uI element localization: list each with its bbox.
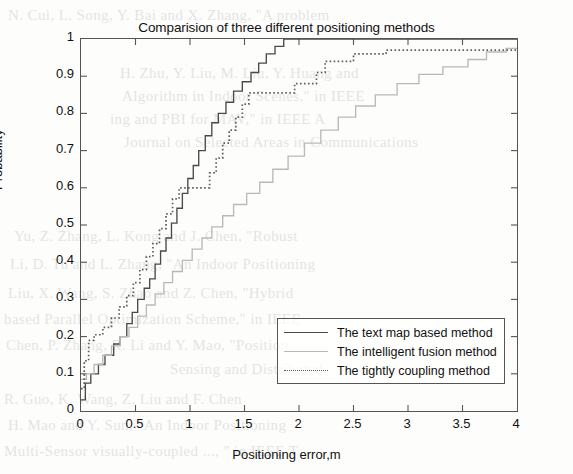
x-tick-label: 0.5 <box>115 416 155 431</box>
y-axis-label: Probability <box>0 129 5 190</box>
chart-title: Comparision of three different positioni… <box>0 20 573 35</box>
x-tick-label: 3.5 <box>442 416 482 431</box>
x-tick-label: 1.5 <box>224 416 264 431</box>
x-tick-label: 2 <box>278 416 318 431</box>
y-tick-label: 0.7 <box>38 141 74 156</box>
y-tick-label: 0.1 <box>38 364 74 379</box>
legend-item: The tightly coupling method <box>284 361 498 380</box>
x-tick-label: 2.5 <box>333 416 373 431</box>
y-tick-label: 0.5 <box>38 215 74 230</box>
legend-label: The tightly coupling method <box>337 364 490 378</box>
x-tick-label: 0 <box>60 416 100 431</box>
y-tick-label: 0.9 <box>38 66 74 81</box>
legend-label: The text map based method <box>337 326 493 340</box>
x-axis-tick-labels: 00.511.522.533.54 <box>80 416 518 436</box>
x-axis-label: Positioning error,m <box>0 447 573 462</box>
legend-item: The text map based method <box>284 323 498 342</box>
y-tick-label: 1 <box>38 29 74 44</box>
y-tick-label: 0.2 <box>38 327 74 342</box>
y-tick-label: 0.3 <box>38 289 74 304</box>
legend-item: The intelligent fusion method <box>284 342 498 361</box>
y-axis-tick-labels: 00.10.20.30.40.50.60.70.80.91 <box>34 38 74 412</box>
x-tick-label: 3 <box>387 416 427 431</box>
chart-legend: The text map based method The intelligen… <box>277 318 505 384</box>
y-tick-label: 0.6 <box>38 178 74 193</box>
x-tick-label: 1 <box>169 416 209 431</box>
legend-label: The intelligent fusion method <box>337 345 497 359</box>
y-tick-label: 0.8 <box>38 103 74 118</box>
x-tick-label: 4 <box>496 416 536 431</box>
y-tick-label: 0.4 <box>38 252 74 267</box>
figure-cdf-positioning-error: Comparision of three different positioni… <box>0 0 573 474</box>
y-tick-label: 0 <box>38 401 74 416</box>
